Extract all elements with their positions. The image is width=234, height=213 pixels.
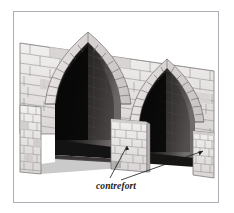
left-pier — [20, 105, 41, 174]
figure-frame: contrefort — [13, 11, 219, 203]
bridge-illustration: contrefort — [14, 12, 219, 203]
center-buttress-side — [147, 122, 150, 172]
right-buttress — [193, 131, 214, 178]
annotation-label: contrefort — [96, 181, 136, 191]
figure-root: contrefort — [0, 0, 234, 213]
